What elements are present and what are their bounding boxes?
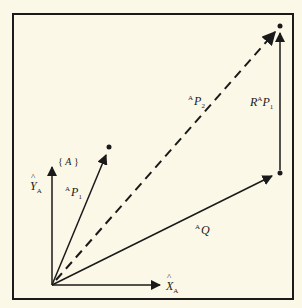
vector-aq — [52, 176, 272, 285]
frame-name: A — [65, 156, 71, 167]
frame-brace-open: { — [58, 156, 63, 167]
rap1-label: RAP1 — [250, 96, 273, 111]
diagram-svg — [0, 0, 302, 308]
ap1-sub: 1 — [78, 193, 82, 201]
x-axis-sub: A — [173, 287, 178, 295]
aq-pre: A — [195, 223, 200, 231]
y-axis-label: YA — [30, 180, 42, 195]
point-q — [278, 171, 283, 176]
ap2-sub: 2 — [201, 102, 205, 110]
rap1-base: P — [262, 95, 269, 109]
diagram-canvas: { A } YA XA AP1 AP2 AQ RAP1 — [0, 0, 302, 308]
rap1-sub: 1 — [270, 103, 274, 111]
ap1-label: AP1 — [65, 186, 82, 201]
y-axis-base: Y — [30, 180, 37, 192]
frame-label: { A } — [58, 157, 79, 167]
ap2-label: AP2 — [188, 95, 205, 110]
y-axis-sub: A — [37, 187, 42, 195]
vector-ap2-dashed — [56, 32, 275, 280]
aq-label: AQ — [195, 224, 210, 236]
point-p2 — [278, 24, 283, 29]
ap2-pre: A — [188, 94, 193, 102]
border-frame — [13, 14, 293, 299]
aq-base: Q — [201, 223, 210, 237]
x-axis-base: X — [166, 280, 173, 292]
point-p1 — [107, 145, 112, 150]
ap1-pre: A — [65, 185, 70, 193]
vector-ap1 — [52, 155, 106, 285]
x-axis-label: XA — [166, 280, 178, 295]
frame-brace-close: } — [74, 156, 79, 167]
